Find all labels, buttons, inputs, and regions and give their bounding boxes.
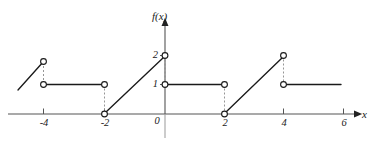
x-tick-label-0: 0 bbox=[151, 116, 163, 127]
function-segments-group bbox=[18, 58, 341, 113]
x-tick-label--2: -2 bbox=[97, 118, 113, 129]
open-point--2-1 bbox=[102, 82, 108, 88]
x-tick-label-6: 6 bbox=[338, 118, 350, 129]
open-point-2-1 bbox=[222, 82, 228, 88]
x-tick-label-2: 2 bbox=[219, 118, 231, 129]
graph-canvas bbox=[0, 0, 382, 143]
x-tick-label--4: -4 bbox=[36, 118, 52, 129]
function-graph-figure: f(x) x -4 -2 0 2 4 6 1 2 bbox=[0, 0, 382, 143]
y-tick-label-1: 1 bbox=[148, 79, 158, 90]
axes-group bbox=[8, 25, 355, 138]
ramp-segment-left-partial bbox=[18, 63, 42, 90]
ramp-segment-2 bbox=[226, 58, 283, 113]
open-point-4-2 bbox=[281, 53, 287, 59]
x-tick-label-4: 4 bbox=[278, 118, 290, 129]
y-axis-label: f(x) bbox=[152, 11, 167, 22]
open-point-4-1 bbox=[281, 82, 287, 88]
y-tick-label-2: 2 bbox=[148, 50, 158, 61]
open-point-0-1 bbox=[162, 82, 168, 88]
open-point--4-1 bbox=[41, 82, 47, 88]
open-point--4-1p72 bbox=[41, 59, 47, 65]
x-axis-label: x bbox=[362, 109, 367, 120]
open-point-0-2 bbox=[162, 53, 168, 59]
